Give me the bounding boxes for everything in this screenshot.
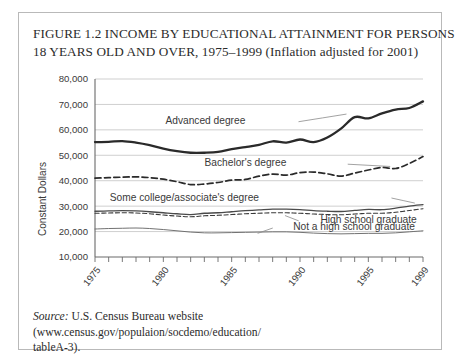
annotation-leader-line	[299, 114, 347, 122]
figure-title-line-2: 18 YEARS OLD AND OVER, 1975–1999 (Inflat…	[33, 43, 431, 61]
source-label: Source:	[33, 310, 69, 323]
x-tick-label: 1975	[81, 264, 103, 288]
series-annotation-label: Some college/associate's degree	[110, 192, 260, 203]
figure-title: FIGURE 1.2 INCOME BY EDUCATIONAL ATTAINM…	[33, 25, 431, 61]
annotation-leader-line	[258, 228, 273, 233]
figure-title-line-1: FIGURE 1.2 INCOME BY EDUCATIONAL ATTAINM…	[33, 25, 431, 43]
axis-lines	[95, 79, 423, 262]
source-text-line-2: tableA-3).	[33, 341, 80, 354]
x-tick-label: 1985	[217, 264, 239, 288]
series-annotation-label: Not a high school graduate	[293, 221, 415, 232]
gridlines	[95, 79, 423, 232]
x-axis-tick-labels: 197519801985199019951999	[81, 264, 429, 288]
y-axis-tick-labels: 10,00020,00030,00040,00050,00060,00070,0…	[59, 73, 88, 262]
series-annotation-label: Advanced degree	[165, 115, 245, 126]
y-tick-label: 80,000	[59, 73, 88, 84]
x-tick-label: 1995	[354, 264, 376, 288]
figure-frame: FIGURE 1.2 INCOME BY EDUCATIONAL ATTAINM…	[18, 12, 442, 350]
y-tick-label: 30,000	[59, 201, 88, 212]
series-line	[95, 101, 423, 153]
series-annotations: Advanced degreeBachelor's degreeSome col…	[110, 114, 417, 233]
series-annotation-label: Bachelor's degree	[205, 157, 287, 168]
y-tick-label: 60,000	[59, 124, 88, 135]
annotation-leader-line	[348, 164, 390, 166]
y-tick-label: 40,000	[59, 175, 88, 186]
annotation-leader-line	[391, 198, 414, 203]
annotation-leader-line	[285, 216, 299, 221]
x-tick-label: 1999	[409, 264, 429, 288]
x-tick-label: 1980	[149, 264, 171, 288]
y-tick-label: 70,000	[59, 99, 88, 110]
y-axis-title: Constant Dollars	[37, 162, 48, 236]
income-by-education-line-chart: 10,00020,00030,00040,00050,00060,00070,0…	[33, 71, 429, 309]
y-tick-label: 10,000	[59, 251, 88, 262]
y-tick-label: 20,000	[59, 226, 88, 237]
source-note: Source: U.S. Census Bureau website (www.…	[33, 309, 433, 356]
x-tick-label: 1990	[286, 264, 308, 288]
chart-plot-area: 10,00020,00030,00040,00050,00060,00070,0…	[33, 71, 429, 309]
y-tick-label: 50,000	[59, 150, 88, 161]
